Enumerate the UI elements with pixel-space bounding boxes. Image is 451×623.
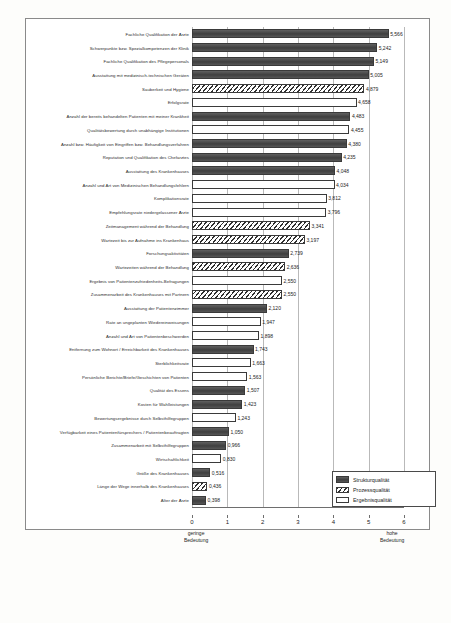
category-label: Ausstattung der Patientenzimmer [124,306,189,311]
category-label: Schwerpunkte bzw. Spezialkompetenzen der… [90,45,189,50]
category-label: Größe des Krankenhauses [136,470,189,475]
bar: 5,005 [192,70,369,79]
bar: 4,455 [192,125,349,134]
category-label: Ergebnis von Patientenzufriedenheits-Bef… [89,278,189,283]
bar: 4,034 [192,180,335,189]
bar: 3,796 [192,208,326,217]
bar: 1,050 [192,427,229,436]
bar-row: Sauberkeit und Hygiene4,879 [192,82,404,96]
x-tick-label: 2 [261,519,264,525]
category-label: Fachliche Qualifikation der Ärzte [125,31,189,36]
category-label: Entfernung zum Wohnort / Erreichbarkeit … [69,347,189,352]
bar: 4,879 [192,84,364,93]
bar-row: Fachliche Qualifikation der Ärzte5,566 [192,27,404,41]
bar-value-label: 2,550 [284,278,297,284]
category-label: Ausstattung mit medizinisch-technischen … [92,72,189,77]
bar-row: Qualität des Essens1,507 [192,384,404,398]
bar-value-label: 4,380 [348,141,361,147]
bar-row: Zusammenarbeit mit Selbsthilfegruppen0,9… [192,438,404,452]
bar-row: Bewertungsergebnisse durch Selbsthilfegr… [192,411,404,425]
category-label: Wirtschaftlichkeit [156,456,189,461]
bar: 5,566 [192,29,389,38]
bar: 4,380 [192,139,347,148]
bar-value-label: 4,048 [337,168,350,174]
bar: 4,048 [192,166,335,175]
bar: 1,743 [192,345,254,354]
category-label: Qualität des Essens [150,388,189,393]
category-label: Anzahl der bereits behandelten Patienten… [67,114,189,119]
bar-value-label: 2,636 [287,264,300,270]
bar-row: Qualitätsbewertung durch unabhängige Ins… [192,123,404,137]
x-tick [192,515,193,518]
bar: 0,398 [192,496,206,505]
bar-value-label: 3,341 [312,223,325,229]
x-tick [369,515,370,518]
category-label: Empfehlungsrate niedergelassener Ärzte [109,210,189,215]
x-tick-label: 6 [402,519,405,525]
category-label: Erfolgsrate [168,100,189,105]
bar-value-label: 4,455 [351,127,364,133]
bar-value-label: 1,898 [261,333,274,339]
bar-row: Kosten für Wahlleistungen1,423 [192,397,404,411]
bar: 0,966 [192,441,226,450]
bar-value-label: 3,197 [306,237,319,243]
bar-value-label: 0,398 [208,497,221,503]
x-tick [263,515,264,518]
bar-value-label: 1,743 [255,346,268,352]
bar: 0,830 [192,454,221,463]
category-label: Persönliche Berichte/Briefe/Geschichten … [82,374,189,379]
category-label: Sterblichkeitsrate [155,360,189,365]
bar: 1,423 [192,400,242,409]
category-label: Wartezeiten während der Behandlung [115,264,189,269]
plot-area: Fachliche Qualifikation der Ärzte5,566Sc… [192,27,404,507]
category-label: Anzahl und Art von Medizinischen Behandl… [83,182,189,187]
x-tick-label: 0 [190,519,193,525]
category-label: Kosten für Wahlleistungen [138,402,189,407]
bar-value-label: 1,507 [247,387,260,393]
bar-value-label: 1,423 [244,401,257,407]
bar-row: Ausstattung der Patientenzimmer2,120 [192,301,404,315]
legend-item-struktur: Strukturqualität [336,475,432,485]
bar-value-label: 3,812 [328,195,341,201]
legend-item-ergebnis: Ergebnisqualität [336,495,432,505]
bar-row: Wartezeit bis zur Aufnahme ins Krankenha… [192,233,404,247]
x-axis: 0123456geringeBedeutunghoheBedeutung [192,515,404,555]
bar-row: Zeitmanagement während der Behandlung3,3… [192,219,404,233]
bar-row: Wirtschaftlichkeit0,830 [192,452,404,466]
bar-row: Sterblichkeitsrate1,663 [192,356,404,370]
chart-legend: StrukturqualitätProzessqualitätErgebnisq… [332,471,436,507]
bar-value-label: 1,947 [262,319,275,325]
category-label: Fachliche Qualifikation des Pflegeperson… [103,59,189,64]
bar-row: Schwerpunkte bzw. Spezialkompetenzen der… [192,41,404,55]
bar-value-label: 3,796 [328,209,341,215]
bar-row: Forschungsaktivitäten2,739 [192,246,404,260]
bar-value-label: 2,550 [284,291,297,297]
bar-value-label: 5,005 [370,72,383,78]
category-label: Anzahl und Art von Patientenbeschwerden [106,333,189,338]
bar-row: Anzahl und Art von Medizinischen Behandl… [192,178,404,192]
x-tick-label: 3 [296,519,299,525]
bar-value-label: 4,235 [343,154,356,160]
x-tick [298,515,299,518]
bar-value-label: 4,879 [366,86,379,92]
bar: 5,149 [192,57,374,66]
x-tick [333,515,334,518]
bar-value-label: 5,566 [390,31,403,37]
bar-value-label: 1,050 [231,429,244,435]
axis-note-high: hoheBedeutung [380,530,404,543]
category-label: Zeitmanagement während der Behandlung [106,223,189,228]
legend-item-prozess: Prozessqualität [336,485,432,495]
bar-value-label: 1,663 [252,360,265,366]
bar-row: Wartezeiten während der Behandlung2,636 [192,260,404,274]
bar-row: Reputation und Qualifikation des Chefarz… [192,150,404,164]
bar-value-label: 4,483 [352,113,365,119]
category-label: Verfügbarkeit eines Patientenfürsprecher… [60,429,189,434]
axis-note-low: geringeBedeutung [184,530,208,543]
legend-swatch-struktur [336,476,349,483]
x-tick-label: 5 [367,519,370,525]
gridline [404,27,405,507]
legend-label: Strukturqualität [353,477,389,483]
bar-row: Ausstattung des Krankenhauses4,048 [192,164,404,178]
category-label: Bewertungsergebnisse durch Selbsthilfegr… [94,415,189,420]
bar-value-label: 4,034 [336,182,349,188]
